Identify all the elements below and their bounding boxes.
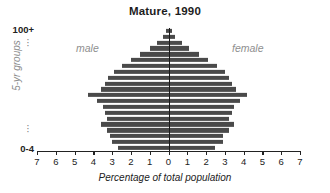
bar-female [169,105,235,109]
bar-female [169,81,233,85]
ellipsis-dot: · [22,130,34,133]
x-tick [93,151,94,155]
population-pyramid-chart: Mature, 1990 male female 765432101234567… [0,0,330,193]
bar-male [150,46,169,50]
bar-female [169,146,216,150]
x-tick-label: 6 [47,156,65,167]
bar-female [169,140,223,144]
x-tick-label: 2 [122,156,140,167]
bar-female [169,99,240,103]
bar-male [114,70,168,74]
x-tick [300,151,301,155]
x-axis-title: Percentage of total population [0,172,330,183]
bar-male [101,87,169,91]
bar-male [118,146,169,150]
center-axis-line [169,28,171,152]
bar-female [169,52,199,56]
bar-female [169,58,208,62]
chart-title: Mature, 1990 [0,5,330,17]
x-tick [131,151,132,155]
bar-male [157,40,168,44]
bar-female [169,87,237,91]
bar-male [122,64,169,68]
bar-male [107,128,169,132]
bar-female [169,64,218,68]
x-tick-label: 1 [141,156,159,167]
bar-male [140,52,168,56]
bar-male [88,93,169,97]
bar-male [131,58,169,62]
bar-male [97,99,168,103]
x-tick [187,151,188,155]
x-tick [150,151,151,155]
bar-male [103,105,169,109]
x-tick [75,151,76,155]
bar-male [105,111,169,115]
bar-female [169,93,248,97]
x-tick-label: 7 [28,156,46,167]
y-axis-title: 5-yr groups [11,34,22,98]
bar-female [169,40,182,44]
x-tick-label: 1 [178,156,196,167]
bar-male [112,140,168,144]
bar-female [169,116,229,120]
x-tick-label: 3 [103,156,121,167]
x-tick-label: 3 [216,156,234,167]
bar-male [110,134,168,138]
bar-male [105,81,169,85]
bar-female [169,128,229,132]
bar-female [169,122,235,126]
x-tick [169,151,170,155]
bar-female [169,111,233,115]
y-axis-ellipsis-upper: · · · [22,38,34,47]
x-tick [206,151,207,155]
x-tick-label: 2 [197,156,215,167]
x-tick [244,151,245,155]
x-tick-label: 4 [235,156,253,167]
x-tick [56,151,57,155]
y-axis-ellipsis-lower: · · · [22,124,34,133]
bar-female [169,134,223,138]
bar-female [169,76,229,80]
x-tick [225,151,226,155]
x-tick [281,151,282,155]
x-tick-label: 4 [84,156,102,167]
x-tick-label: 6 [272,156,290,167]
x-tick [37,151,38,155]
y-axis-bottom-label: 0-4 [4,143,34,154]
bar-male [101,122,169,126]
x-tick [112,151,113,155]
x-tick [262,151,263,155]
bar-female [169,46,190,50]
x-tick-label: 7 [291,156,309,167]
bar-male [107,116,169,120]
x-tick-label: 5 [66,156,84,167]
bar-female [169,70,225,74]
x-tick-label: 0 [160,156,178,167]
x-tick-label: 5 [253,156,271,167]
bar-male [108,76,168,80]
ellipsis-dot: · [22,44,34,47]
